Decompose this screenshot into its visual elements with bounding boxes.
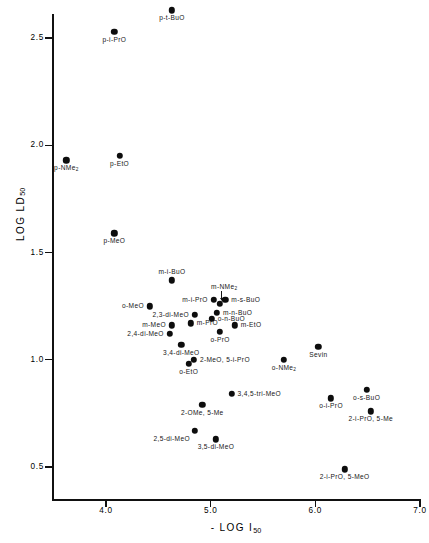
data-point-label: 2-MeO, 5-i-PrO xyxy=(200,357,250,364)
data-point[interactable] xyxy=(147,303,153,309)
data-point-label: o-EtO xyxy=(179,369,198,376)
data-point-label: o-MeO xyxy=(122,303,144,310)
data-point[interactable] xyxy=(217,329,223,335)
x-axis-tick-label: 5.0 xyxy=(191,507,231,515)
y-axis-line xyxy=(52,14,54,500)
data-point[interactable] xyxy=(169,7,175,13)
y-axis-tick xyxy=(45,359,53,360)
x-axis-title-text: - LOG I xyxy=(211,522,254,533)
data-point[interactable] xyxy=(111,230,117,236)
data-point-label: m-i-BuO xyxy=(158,269,185,276)
data-point[interactable] xyxy=(188,320,194,326)
data-point-label: p-MeO xyxy=(103,238,125,245)
y-axis-tick xyxy=(45,252,53,253)
data-point[interactable] xyxy=(192,427,198,433)
y-axis-tick xyxy=(45,466,53,467)
scatter-plot-figure: LOG LD50 - LOG I50 0.51.01.52.02.54.05.0… xyxy=(0,0,429,543)
data-point[interactable] xyxy=(116,153,122,159)
x-axis-title: - LOG I50 xyxy=(52,522,420,535)
data-point[interactable] xyxy=(111,28,117,34)
y-axis-tick-label: 1.5 xyxy=(8,249,44,257)
data-point[interactable] xyxy=(63,157,69,163)
y-axis-title-sub: 50 xyxy=(18,188,27,196)
data-point-label: m-NMe2 xyxy=(211,284,237,292)
data-point[interactable] xyxy=(185,361,191,367)
data-point-label: 2,4-di-MeO xyxy=(127,331,163,338)
data-point[interactable] xyxy=(199,402,205,408)
data-point-label: p-i-PrO xyxy=(103,37,127,44)
data-point-label: 3,4-di-MeO xyxy=(163,350,199,357)
data-point-label: 2,5-di-MeO xyxy=(153,436,189,443)
data-point-label: m-MeO xyxy=(142,322,166,329)
data-point-label: o-s-BuO xyxy=(353,395,380,402)
data-point-label: m-PrO xyxy=(197,320,218,327)
data-point[interactable] xyxy=(228,391,234,397)
data-point-label: 2-i-PrO, 5-MeO xyxy=(320,474,370,481)
data-point-label: m-i-PrO xyxy=(182,297,208,304)
data-point[interactable] xyxy=(192,312,198,318)
x-axis-tick-label: 7.0 xyxy=(400,507,429,515)
data-point-label: 2,3-di-MeO xyxy=(152,312,188,319)
data-point[interactable] xyxy=(281,357,287,363)
data-point[interactable] xyxy=(341,466,347,472)
data-point[interactable] xyxy=(213,436,219,442)
data-point[interactable] xyxy=(368,408,374,414)
data-point[interactable] xyxy=(178,342,184,348)
data-point[interactable] xyxy=(328,395,334,401)
x-axis-title-sub: 50 xyxy=(253,526,261,535)
data-point-label: p-EtO xyxy=(110,161,129,168)
data-point[interactable] xyxy=(232,322,238,328)
y-axis-tick xyxy=(45,145,53,146)
data-point[interactable] xyxy=(169,322,175,328)
y-axis-tick-label: 1.0 xyxy=(8,356,44,364)
y-axis-tick-label: 0.5 xyxy=(8,463,44,471)
data-point-label: o-PrO xyxy=(210,337,229,344)
data-point-label: 3,5-di-MeO xyxy=(198,444,234,451)
data-point-label: o-i-PrO xyxy=(319,403,343,410)
data-point-label: Sevin xyxy=(309,352,327,359)
data-point-label: p-t-BuO xyxy=(159,15,185,22)
data-point[interactable] xyxy=(191,357,197,363)
data-point[interactable] xyxy=(167,331,173,337)
data-point-label: m-EtO xyxy=(241,322,262,329)
y-axis-tick-label: 2.5 xyxy=(8,34,44,42)
x-axis-line xyxy=(52,499,420,501)
data-point-label: m-s-BuO xyxy=(231,297,260,304)
y-axis-tick xyxy=(45,37,53,38)
data-point[interactable] xyxy=(169,277,175,283)
data-point-label: p-NMe2 xyxy=(54,165,78,173)
data-point[interactable] xyxy=(315,344,321,350)
y-axis-title-text: LOG LD xyxy=(15,196,26,241)
data-point-label: o-NMe2 xyxy=(272,365,296,373)
data-point[interactable] xyxy=(363,387,369,393)
y-axis-tick-label: 2.0 xyxy=(8,141,44,149)
data-point-label: 2-OMe, 5-Me xyxy=(181,410,224,417)
x-axis-tick-label: 6.0 xyxy=(295,507,335,515)
data-point-label: 2-i-PrO, 5-Me xyxy=(349,416,393,423)
x-axis-tick-label: 4.0 xyxy=(86,507,126,515)
data-point-label: 3,4,5-tri-MeO xyxy=(238,391,281,398)
data-point[interactable] xyxy=(222,296,228,302)
